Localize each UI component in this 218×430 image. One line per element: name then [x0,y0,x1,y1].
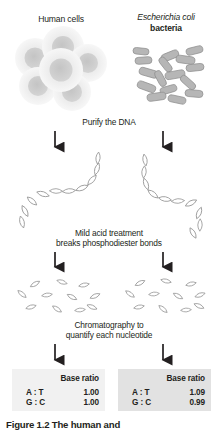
free-nucleotides-ecoli [125,278,206,314]
table-row: A : T 1.09 [118,388,211,398]
base-ratio-header-human: Base ratio [60,374,99,383]
step-label-purify: Purify the DNA [0,117,218,127]
free-nucleotides-human [17,279,101,314]
base-pair-label: G : C [26,398,45,408]
base-ratio-box-human: Base ratio A : T 1.00 G : C 1.00 [12,369,105,411]
table-row: G : C 1.00 [12,398,105,408]
figure-illustrations [0,0,218,430]
base-pair-label: G : C [132,398,151,408]
table-row: A : T 1.00 [12,388,105,398]
step-acid-line1: Mild acid treatment [0,228,218,238]
human-cell-cluster [15,26,107,111]
base-pair-label: A : T [132,388,149,398]
base-pair-label: A : T [26,388,43,398]
figure-panel: Human cells Escherichia coli bacteria [0,0,218,430]
step-label-acid-treatment: Mild acid treatment breaks phosphodieste… [0,228,218,248]
figure-caption: Figure 1.2 The human and [6,419,212,430]
dna-strand-human [18,152,101,229]
dna-strand-ecoli [141,154,203,240]
base-ratio-value: 1.00 [83,398,99,408]
step-chromatography-line1: Chromatography to [0,320,218,330]
cell [39,48,83,92]
base-ratio-rows-ecoli: A : T 1.09 G : C 0.99 [118,388,211,409]
step-acid-line2: breaks phosphodiester bonds [0,238,218,248]
base-ratio-value: 1.00 [83,388,99,398]
step-label-chromatography: Chromatography to quantify each nucleoti… [0,320,218,340]
step-chromatography-line2: quantify each nucleotide [0,330,218,340]
base-ratio-value: 1.09 [189,388,205,398]
base-ratio-rows-human: A : T 1.00 G : C 1.00 [12,388,105,409]
base-ratio-header-ecoli: Base ratio [166,374,205,383]
base-ratio-value: 0.99 [189,398,205,408]
base-ratio-box-ecoli: Base ratio A : T 1.09 G : C 0.99 [118,369,211,411]
ecoli-bacteria-cluster [133,45,205,105]
table-row: G : C 0.99 [118,398,211,408]
